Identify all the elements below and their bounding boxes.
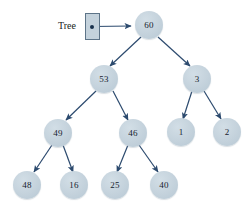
tree-node[interactable]: 1 [167, 118, 195, 146]
tree-node[interactable]: 25 [101, 171, 129, 199]
edge-53-to-46 [113, 91, 128, 120]
edge-60-to-53 [110, 37, 141, 66]
tree-node[interactable]: 49 [44, 119, 72, 147]
edge-46-to-25 [117, 145, 128, 172]
tree-node[interactable]: 2 [213, 118, 241, 146]
node-value: 49 [53, 128, 62, 137]
edge-46-to-40 [139, 145, 158, 172]
tree-node[interactable]: 16 [60, 171, 88, 199]
node-value: 48 [22, 180, 31, 189]
pointer-dot-icon [90, 25, 94, 29]
edge-49-to-48 [34, 145, 52, 172]
tree-root-pointer-box[interactable] [85, 13, 100, 40]
edge-49-to-16 [63, 145, 73, 172]
tree-node[interactable]: 53 [90, 65, 118, 93]
tree-root-label: Tree [58, 20, 76, 31]
tree-node[interactable]: 46 [119, 119, 147, 147]
edge-3-to-2 [204, 91, 221, 119]
edge-3-to-1 [183, 91, 192, 119]
node-value: 2 [225, 127, 230, 136]
node-value: 46 [128, 128, 137, 137]
tree-node[interactable]: 60 [135, 11, 163, 39]
tree-node[interactable]: 40 [150, 171, 178, 199]
node-value: 3 [195, 74, 200, 83]
node-value: 60 [144, 20, 153, 29]
tree-node[interactable]: 48 [13, 171, 41, 199]
node-value: 1 [179, 127, 184, 136]
node-value: 53 [99, 74, 108, 83]
binary-tree-diagram: Tree 60 53 3 49 46 1 2 48 16 25 40 [0, 0, 252, 209]
edge-53-to-49 [66, 91, 96, 120]
tree-node[interactable]: 3 [183, 65, 211, 93]
edge-60-to-3 [158, 37, 190, 66]
node-value: 40 [159, 180, 168, 189]
node-value: 16 [69, 180, 78, 189]
node-value: 25 [110, 180, 119, 189]
